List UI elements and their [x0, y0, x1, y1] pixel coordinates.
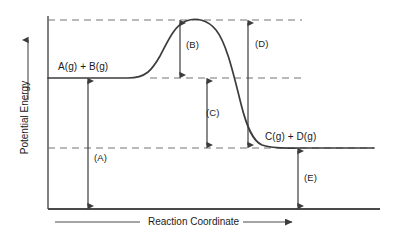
reactants-label: A(g) + B(g): [58, 61, 108, 72]
marker-label-a: (A): [94, 152, 107, 163]
energy-profile-chart: [0, 0, 394, 241]
marker-label-d: (D): [255, 38, 269, 49]
x-axis-label: Reaction Coordinate: [148, 216, 239, 227]
marker-label-b: (B): [186, 39, 199, 50]
products-label: C(g) + D(g): [265, 131, 316, 142]
marker-label-c: (C): [206, 107, 220, 118]
y-axis-label: Potential Energy: [19, 68, 30, 168]
reaction-energy-curve: [48, 19, 374, 148]
energy-diagram-figure: Potential Energy Reaction Coordinate A(g…: [0, 0, 394, 241]
marker-label-e: (E): [304, 172, 317, 183]
dashed-level-lines: [48, 20, 374, 148]
